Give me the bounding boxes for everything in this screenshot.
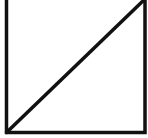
diagonal-line: [7, 0, 145, 132]
square-diagonal-diagram: [0, 0, 148, 138]
